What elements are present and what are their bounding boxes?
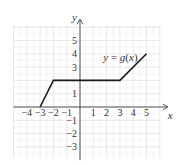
svg-text:5: 5 — [72, 35, 77, 46]
svg-text:3: 3 — [72, 62, 77, 73]
svg-text:−2: −2 — [66, 128, 77, 139]
graph-of-g: −4−3−2−1123455431−1−2−3 x y y = g(x) — [0, 0, 183, 165]
svg-text:2: 2 — [104, 107, 109, 118]
x-axis-label: x — [167, 109, 173, 121]
svg-text:5: 5 — [144, 107, 149, 118]
svg-text:1: 1 — [72, 88, 77, 99]
grid — [14, 26, 160, 158]
y-axis-label: y — [71, 11, 77, 23]
svg-text:−2: −2 — [48, 107, 59, 118]
svg-text:−3: −3 — [66, 141, 77, 152]
svg-text:1: 1 — [91, 107, 96, 118]
svg-text:4: 4 — [131, 107, 136, 118]
svg-text:−4: −4 — [21, 107, 32, 118]
svg-text:4: 4 — [72, 48, 77, 59]
svg-text:3: 3 — [117, 107, 122, 118]
function-label: y = g(x) — [102, 51, 138, 64]
svg-text:−1: −1 — [66, 115, 77, 126]
svg-text:−3: −3 — [35, 107, 46, 118]
